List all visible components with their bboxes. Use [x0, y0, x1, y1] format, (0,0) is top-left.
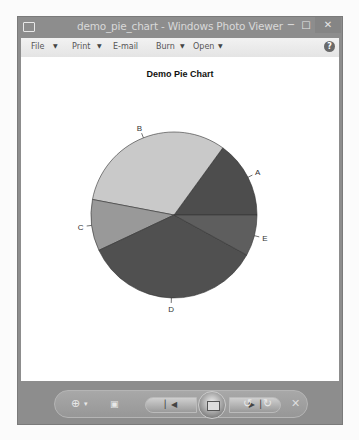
menu-open[interactable]: Open [193, 42, 214, 51]
slideshow-button[interactable] [198, 391, 226, 419]
menu-file[interactable]: File [31, 42, 44, 51]
menu-burn[interactable]: Burn [156, 42, 175, 51]
slice-label-e: E [262, 234, 267, 243]
next-button[interactable]: ▶▕ [229, 397, 281, 413]
delete-icon[interactable]: ✕ [291, 397, 300, 410]
maximize-button[interactable]: □ [299, 17, 313, 33]
rotate-counterclockwise-icon[interactable]: ↺ [243, 397, 252, 410]
title-bar[interactable]: demo_pie_chart - Windows Photo Viewer − … [18, 17, 342, 38]
burn-dropdown-icon[interactable]: ▼ [180, 42, 185, 49]
print-dropdown-icon[interactable]: ▼ [97, 42, 102, 49]
menu-email[interactable]: E-mail [113, 42, 138, 51]
zoom-icon[interactable]: ⊕ [71, 397, 80, 410]
previous-button[interactable]: ▏◀ [145, 397, 197, 413]
slice-label-a: A [255, 168, 261, 177]
help-icon[interactable]: ? [324, 41, 335, 52]
previous-icon: ▏◀ [165, 400, 177, 409]
zoom-dropdown-icon[interactable]: ▾ [84, 400, 88, 408]
slice-label-c: C [78, 223, 84, 232]
minimize-button[interactable]: − [284, 17, 298, 33]
slice-label-b: B [137, 124, 142, 133]
file-dropdown-icon[interactable]: ▼ [53, 42, 58, 49]
actual-size-icon[interactable]: ▣ [110, 399, 119, 409]
image-canvas: Demo Pie Chart ABCDE [21, 57, 339, 381]
close-button[interactable]: ✕ [315, 17, 341, 33]
photo-viewer-window: demo_pie_chart - Windows Photo Viewer − … [17, 16, 343, 425]
menu-bar: File ▼ Print ▼ E-mail Burn ▼ Open ▼ ? [21, 38, 339, 57]
bottom-toolbar: ⊕ ▾ ▣ ▏◀ ▶▕ ↺ ↻ ✕ [54, 390, 308, 418]
menu-print[interactable]: Print [72, 42, 90, 51]
rotate-clockwise-icon[interactable]: ↻ [263, 397, 272, 410]
slice-label-d: D [168, 305, 174, 314]
pie-chart: ABCDE [21, 57, 339, 381]
slideshow-icon [207, 401, 220, 411]
open-dropdown-icon[interactable]: ▼ [218, 42, 223, 49]
